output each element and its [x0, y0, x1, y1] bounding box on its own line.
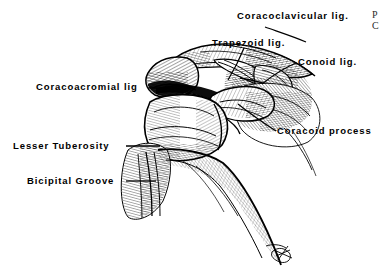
corner-note-line-2: C: [372, 20, 385, 31]
label-bicipital-groove: Bicipital Groove: [27, 176, 114, 186]
corner-note-line-1: P: [372, 9, 385, 20]
label-coracoclavicular-lig: Coracoclavicular lig.: [237, 11, 349, 21]
label-trapezoid-lig: Trapezoid lig.: [212, 38, 285, 48]
label-conoid-lig: Conoid lig.: [298, 57, 357, 67]
humeral-shaft-structure: [155, 145, 285, 270]
label-lesser-tuberosity: Lesser Tuberosity: [13, 141, 109, 151]
label-coracoacromial-lig: Coracoacromial lig: [36, 82, 138, 92]
anatomy-figure-page: Coracoclavicular lig. Trapezoid lig. Con…: [0, 0, 385, 279]
page-corner-note: P C: [372, 9, 385, 31]
label-coracoid-process: Coracoid process: [277, 126, 372, 136]
